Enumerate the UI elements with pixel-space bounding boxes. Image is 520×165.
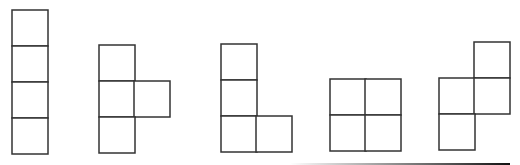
tetromino-diagram [0, 0, 520, 165]
grid-cell [256, 116, 292, 152]
grid-cell [330, 115, 366, 151]
grid-cell [12, 118, 48, 154]
grid-cell [221, 116, 257, 152]
grid-cell [12, 46, 48, 82]
o-tetromino-shape [330, 79, 401, 151]
grid-cell [474, 78, 510, 114]
l-tetromino-shape [221, 44, 292, 152]
bottom-rule [290, 163, 510, 165]
grid-cell [365, 115, 401, 151]
grid-cell [474, 42, 510, 78]
grid-cell [99, 81, 135, 117]
grid-cell [439, 78, 475, 114]
grid-cell [99, 117, 135, 153]
grid-cell [134, 81, 170, 117]
grid-cell [221, 80, 257, 116]
s-tetromino-shape [439, 42, 510, 150]
i-tetromino-shape [12, 10, 48, 154]
grid-cell [330, 79, 366, 115]
grid-cell [221, 44, 257, 80]
t-tetromino-shape [99, 45, 170, 153]
grid-cell [439, 114, 475, 150]
grid-cell [12, 82, 48, 118]
grid-cell [365, 79, 401, 115]
grid-cell [99, 45, 135, 81]
grid-cell [12, 10, 48, 46]
